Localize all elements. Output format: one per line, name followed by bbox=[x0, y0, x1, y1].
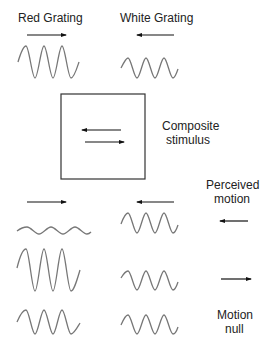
row2-red-wave-large bbox=[17, 249, 80, 291]
composite-stimulus-box bbox=[61, 94, 145, 179]
row3-white-wave-medium bbox=[121, 315, 178, 334]
row3-red-wave-medium bbox=[17, 310, 80, 334]
row2-white-wave-small bbox=[121, 271, 178, 290]
red-grating-wave bbox=[18, 46, 79, 78]
row1-red-wave-small bbox=[17, 227, 91, 234]
white-grating-wave bbox=[121, 58, 178, 78]
diagram-canvas bbox=[0, 0, 273, 355]
row1-white-wave-large bbox=[121, 213, 178, 233]
